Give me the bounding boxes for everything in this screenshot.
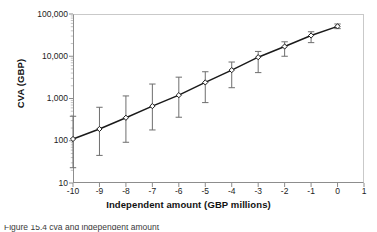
- y-tick-label: 1,000: [22, 94, 68, 103]
- y-tick-label: 100: [22, 136, 68, 145]
- figure-caption: Figure 15.4 cva and independent amount: [4, 225, 159, 232]
- y-tick-label: 10,000: [22, 52, 68, 61]
- y-axis-title: CVA (GBP): [15, 36, 26, 132]
- figure-caption-strip: Figure 15.4 cva and independent amount: [0, 225, 377, 232]
- x-axis-tick-labels: -10-9-8-7-6-5-4-3-2-101: [0, 186, 377, 200]
- chart-figure: 101001,00010,000100,000 CVA (GBP) -10-9-…: [0, 0, 377, 232]
- y-tick-label: 100,000: [22, 10, 68, 19]
- plot-area: [73, 14, 364, 183]
- x-tick-label: 1: [349, 186, 377, 197]
- x-axis-title: Independent amount (GBP millions): [0, 199, 377, 210]
